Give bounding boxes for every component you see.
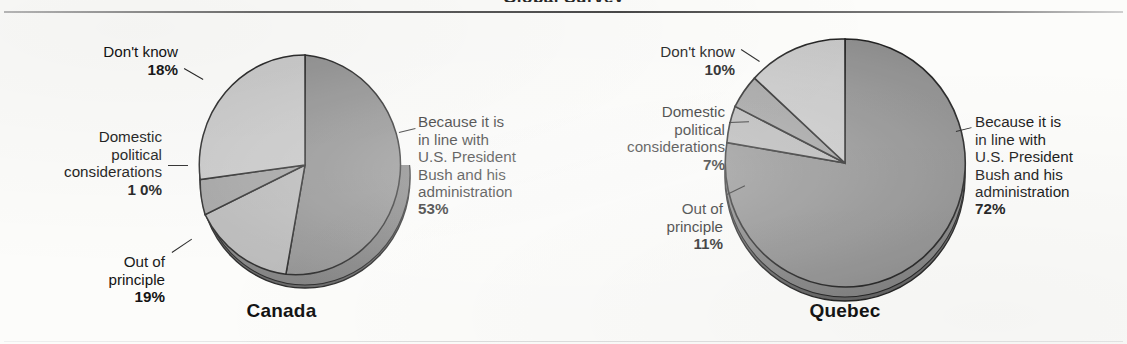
leader-line-principle-canada [172, 239, 193, 254]
caption-canada: Canada [0, 300, 563, 322]
label-dont-know-canada-text: Don't know [103, 43, 178, 60]
label-dont-know-quebec-text: Don't know [660, 43, 735, 60]
label-dont-know-canada: Don't know 18% [58, 26, 178, 96]
slice-dontknow-canada [199, 55, 305, 180]
label-principle-quebec: Out of principle 11% [615, 183, 723, 270]
label-bush-canada-pct: 53% [418, 200, 568, 217]
label-domestic-canada: Domestic political considerations 1 0% [14, 111, 162, 215]
label-bush-quebec-pct: 72% [975, 200, 1127, 217]
label-domestic-quebec: Domestic political considerations 7% [577, 86, 725, 190]
label-domestic-canada-pct: 1 0% [14, 181, 162, 198]
pie-canada-slices [199, 55, 400, 275]
leader-line-domestic-canada [168, 165, 188, 166]
bottom-rule [4, 341, 1123, 342]
label-principle-quebec-pct: 11% [615, 235, 723, 252]
pie-canada-svg [196, 48, 422, 294]
caption-quebec: Quebec [563, 300, 1127, 322]
pie-quebec-slices [725, 39, 965, 287]
label-bush-quebec-text: Because it is in line with U.S. Presiden… [975, 113, 1073, 200]
label-dont-know-quebec-pct: 10% [613, 61, 735, 78]
label-domestic-quebec-text: Domestic political considerations [627, 103, 725, 155]
pie-chart-canada [196, 48, 422, 294]
label-bush-canada-text: Because it is in line with U.S. Presiden… [418, 113, 516, 200]
pie-chart-quebec [722, 30, 978, 306]
panel-canada: Don't know 18% Domestic political consid… [0, 0, 563, 344]
figure-page: Global Survey [0, 0, 1127, 344]
panel-quebec: Don't know 10% Domestic political consid… [563, 0, 1127, 344]
label-domestic-quebec-pct: 7% [577, 156, 725, 173]
label-principle-canada-text: Out of principle [108, 253, 165, 287]
label-bush-quebec: Because it is in line with U.S. Presiden… [975, 96, 1127, 235]
label-domestic-canada-text: Domestic political considerations [64, 128, 162, 180]
label-dont-know-canada-pct: 18% [58, 61, 178, 78]
label-bush-canada: Because it is in line with U.S. Presiden… [418, 96, 568, 235]
pie-quebec-svg [722, 30, 978, 306]
label-principle-quebec-text: Out of principle [666, 200, 723, 234]
